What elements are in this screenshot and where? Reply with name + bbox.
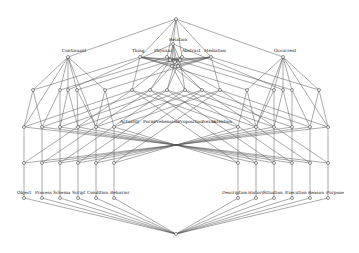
left-node [41, 126, 44, 129]
lattice-diagram: Continuant Thing Physical Relation Abstr… [0, 0, 359, 253]
label-continuant: Continuant [62, 48, 87, 53]
left-node [41, 197, 44, 200]
row3-node [219, 89, 222, 92]
row3-node [201, 89, 204, 92]
label-process: Process [35, 190, 52, 195]
right-node [291, 162, 294, 165]
label-behavior: Behavior [110, 190, 130, 195]
right-node [273, 197, 276, 200]
right-node [291, 126, 294, 129]
left-node [59, 162, 62, 165]
label-situation: Situation [263, 190, 283, 195]
row3-node [166, 89, 169, 92]
left-node [113, 162, 116, 165]
row3-node [184, 89, 187, 92]
label-relation: Relation [169, 37, 187, 42]
left-node [23, 197, 26, 200]
row3-node [291, 89, 294, 92]
left-node [59, 197, 62, 200]
label-form: Form [143, 119, 154, 124]
right-node [255, 197, 258, 200]
right-node [327, 197, 330, 200]
left-node [95, 162, 98, 165]
hub-node [179, 59, 182, 62]
row3-node [76, 89, 79, 92]
label-purpose: Purpose [326, 190, 344, 195]
right-node [309, 162, 312, 165]
left-node [77, 162, 80, 165]
upper-node [172, 43, 175, 46]
upper-node [139, 56, 142, 59]
label-physical: Physical [154, 48, 173, 53]
hub-node [171, 65, 174, 68]
label-condition: Condition [87, 190, 108, 195]
left-node [77, 126, 80, 129]
right-node [309, 126, 312, 129]
label-abstract: Abstract [181, 48, 201, 53]
left-node [59, 126, 62, 129]
upper-node [166, 56, 169, 59]
label-object: Object [17, 190, 32, 195]
row3-node [59, 89, 62, 92]
row3-node [282, 89, 285, 92]
label-mediation: Mediation [204, 48, 226, 53]
label-schema: Schema [53, 190, 71, 195]
right-node [255, 126, 258, 129]
row3-node [149, 89, 152, 92]
right-node [237, 162, 240, 165]
hub-node [174, 61, 177, 64]
right-node [237, 126, 240, 129]
label-execution: Execution [285, 190, 307, 195]
right-node [291, 197, 294, 200]
left-node [41, 162, 44, 165]
label-description: Description [222, 190, 247, 195]
right-node [237, 197, 240, 200]
left-node [113, 126, 116, 129]
top-node [175, 18, 178, 21]
right-node [327, 162, 330, 165]
left-node [95, 197, 98, 200]
label-script: Script [72, 190, 86, 195]
continuant-node [67, 56, 70, 59]
label-thing: Thing [132, 48, 145, 53]
upper-node [210, 56, 213, 59]
upper-node [181, 56, 184, 59]
row3-node [246, 89, 249, 92]
right-node [327, 126, 330, 129]
right-node [273, 126, 276, 129]
row3-node [273, 89, 276, 92]
left-node [77, 197, 80, 200]
left-node [113, 197, 116, 200]
occurrent-node [282, 56, 285, 59]
right-node [309, 197, 312, 200]
label-proposition: Proposition [178, 119, 203, 124]
left-node [23, 162, 26, 165]
label-actuality: Actuality [119, 119, 140, 124]
hub-node [177, 65, 180, 68]
row3-node [104, 89, 107, 92]
left-node [23, 126, 26, 129]
label-reason: Reason [308, 190, 324, 195]
row3-node [32, 89, 35, 92]
row3-node [67, 89, 70, 92]
row3-node [318, 89, 321, 92]
right-node [273, 162, 276, 165]
row3-node [131, 89, 134, 92]
bottom-node [175, 233, 178, 236]
label-occurrent: Occurrent [274, 48, 297, 53]
hub-node [169, 59, 172, 62]
label-prehension: Prehension [154, 119, 179, 124]
left-node [95, 126, 98, 129]
label-intention: Intention [212, 119, 232, 124]
right-node [255, 162, 258, 165]
